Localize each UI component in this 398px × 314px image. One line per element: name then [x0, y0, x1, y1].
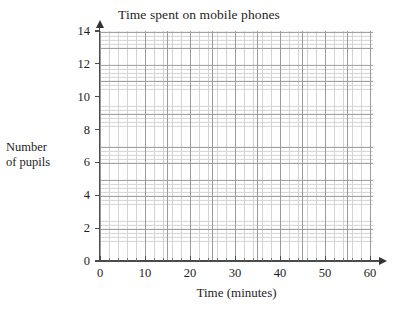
x-minor-tick	[226, 258, 227, 261]
x-minor-tick	[109, 258, 110, 261]
x-tick-20	[190, 256, 191, 262]
x-tick-label: 10	[125, 266, 165, 281]
x-tick-40	[280, 256, 281, 262]
x-minor-tick	[244, 258, 245, 261]
chart-container: Time spent on mobile phones 0 10 20 30 4…	[0, 0, 398, 314]
x-minor-tick	[217, 258, 218, 261]
y-tick-6	[95, 162, 101, 163]
x-minor-tick	[154, 258, 155, 261]
y-tick-label: 0	[64, 254, 90, 269]
plot-grid-area	[100, 31, 373, 261]
y-tick-0	[95, 260, 101, 261]
y-tick-8	[95, 129, 101, 130]
y-axis-title: Number of pupils	[6, 140, 80, 170]
x-minor-tick	[361, 258, 362, 261]
y-tick-14	[95, 30, 101, 31]
x-axis-line	[99, 260, 381, 261]
y-tick-label: 12	[64, 57, 90, 72]
y-tick-label: 14	[64, 24, 90, 39]
y-axis-arrow-icon	[96, 20, 104, 28]
x-minor-tick	[136, 258, 137, 261]
x-minor-tick	[289, 258, 290, 261]
x-tick-label: 30	[215, 266, 255, 281]
y-tick-10	[95, 96, 101, 97]
x-minor-tick	[181, 258, 182, 261]
y-tick-2	[95, 228, 101, 229]
x-minor-tick	[253, 258, 254, 261]
x-axis-title: Time (minutes)	[100, 285, 373, 301]
x-tick-10	[145, 256, 146, 262]
x-minor-tick	[343, 258, 344, 261]
x-minor-tick	[271, 258, 272, 261]
y-tick-4	[95, 195, 101, 196]
x-tick-30	[235, 256, 236, 262]
x-minor-tick	[316, 258, 317, 261]
x-minor-tick	[262, 258, 263, 261]
y-axis-title-line1: Number	[6, 140, 80, 155]
x-minor-tick	[208, 258, 209, 261]
chart-title: Time spent on mobile phones	[0, 7, 398, 23]
y-tick-label: 10	[64, 90, 90, 105]
x-tick-label: 20	[170, 266, 210, 281]
x-tick-50	[325, 256, 326, 262]
y-axis-title-line2: of pupils	[6, 155, 80, 170]
y-tick-label: 4	[64, 188, 90, 203]
y-tick-label: 8	[64, 123, 90, 138]
y-tick-12	[95, 63, 101, 64]
x-tick-label: 60	[350, 266, 390, 281]
x-minor-tick	[163, 258, 164, 261]
x-tick-60	[370, 256, 371, 262]
x-minor-tick	[127, 258, 128, 261]
x-minor-tick	[352, 258, 353, 261]
x-tick-label: 50	[305, 266, 345, 281]
y-tick-label: 2	[64, 221, 90, 236]
x-minor-tick	[118, 258, 119, 261]
x-minor-tick	[307, 258, 308, 261]
x-minor-tick	[199, 258, 200, 261]
x-tick-label: 40	[260, 266, 300, 281]
x-axis-arrow-icon	[379, 257, 387, 265]
x-minor-tick	[334, 258, 335, 261]
x-minor-tick	[172, 258, 173, 261]
x-minor-tick	[298, 258, 299, 261]
